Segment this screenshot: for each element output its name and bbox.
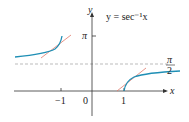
pi-label: π (82, 30, 88, 41)
curve-left-branch (15, 36, 62, 57)
y-axis-label: y (87, 4, 93, 15)
x-axis-arrow-icon (163, 89, 168, 93)
tangent-right (117, 68, 146, 91)
tangent-left (41, 35, 71, 58)
pi-over-2-numerator: π (167, 54, 173, 65)
graph-arcsec: y x y = sec⁻¹x π π 2 −1 0 1 (0, 0, 189, 122)
tick-label-1: 1 (121, 95, 126, 106)
tick-label-0: 0 (83, 95, 88, 106)
x-axis-label: x (169, 85, 175, 96)
pi-over-2-denominator: 2 (167, 65, 172, 76)
function-title: y = sec⁻¹x (106, 11, 147, 22)
tick-label-neg1: −1 (55, 95, 66, 106)
